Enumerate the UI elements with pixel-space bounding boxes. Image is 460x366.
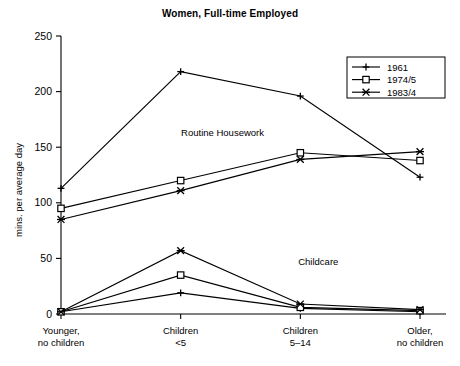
y-axis-tick-label: 150	[34, 141, 52, 153]
chart-annotation-label: Childcare	[298, 256, 338, 267]
x-axis-tick-label: Older,	[407, 325, 432, 336]
series-1961	[58, 289, 424, 315]
y-axis-tick-label: 100	[34, 196, 52, 208]
data-point-cross-marker	[296, 156, 304, 163]
chart-axes: 050100150200250mins. per average dayYoun…	[13, 30, 446, 348]
line-chart-plot: 050100150200250mins. per average dayYoun…	[0, 0, 460, 366]
y-axis-tick-label: 50	[40, 252, 52, 264]
chart-container: Women, Full-time Employed 05010015020025…	[0, 0, 460, 366]
data-point-plus-marker	[297, 93, 304, 100]
data-point-square-marker	[297, 150, 303, 156]
data-point-square-marker	[417, 157, 423, 163]
data-point-plus-marker	[177, 289, 184, 296]
series-1983-4	[57, 247, 424, 315]
x-axis-tick-label: 5–14	[290, 337, 311, 348]
data-point-plus-marker	[417, 174, 424, 181]
legend-item-label: 1961	[387, 62, 408, 73]
data-point-cross-marker	[416, 148, 424, 155]
series-1974-5	[58, 150, 423, 212]
legend-item-1983-4[interactable]: 1983/4	[352, 87, 416, 98]
legend-item-1961[interactable]: 1961	[352, 62, 408, 73]
x-axis-tick-label: Younger,	[42, 325, 79, 336]
series-group-routine-housework	[57, 68, 424, 223]
chart-series	[57, 68, 424, 315]
series-line	[61, 275, 420, 312]
data-point-plus-marker	[363, 64, 370, 71]
data-point-square-marker	[177, 272, 183, 278]
chart-legend[interactable]: 19611974/51983/4	[347, 57, 445, 98]
series-group-childcare	[57, 247, 424, 315]
chart-annotations: Routine HouseworkChildcare	[181, 127, 338, 267]
series-1974-5	[58, 272, 423, 315]
legend-item-label: 1983/4	[387, 87, 416, 98]
series-1983-4	[57, 148, 424, 223]
data-point-square-marker	[417, 307, 423, 313]
data-point-square-marker	[177, 177, 183, 183]
data-point-cross-marker	[177, 247, 185, 254]
x-axis-tick-label: no children	[38, 337, 84, 348]
data-point-cross-marker	[362, 89, 370, 96]
series-line	[61, 251, 420, 312]
y-axis-title: mins. per average day	[13, 143, 24, 237]
data-point-cross-marker	[177, 187, 185, 194]
x-axis-tick-label: <5	[175, 337, 186, 348]
series-line	[61, 152, 420, 220]
series-line	[61, 153, 420, 209]
x-axis-tick-label: Children	[163, 325, 198, 336]
data-point-square-marker	[297, 304, 303, 310]
data-point-square-marker	[363, 76, 369, 82]
chart-annotation-label: Routine Housework	[181, 127, 264, 138]
x-axis-tick-label: no children	[397, 337, 443, 348]
data-point-square-marker	[58, 205, 64, 211]
y-axis-tick-label: 0	[46, 308, 52, 320]
legend-item-label: 1974/5	[387, 74, 416, 85]
x-axis-tick-label: Children	[283, 325, 318, 336]
legend-item-1974-5[interactable]: 1974/5	[352, 74, 416, 85]
y-axis-tick-label: 200	[34, 85, 52, 97]
y-axis-tick-label: 250	[34, 30, 52, 42]
